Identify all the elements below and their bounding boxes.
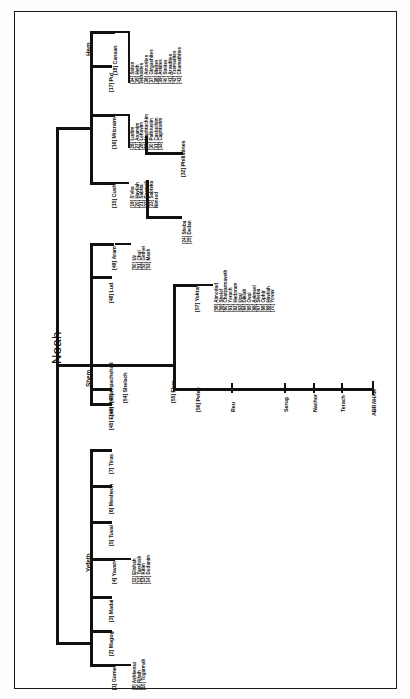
node-yavan-num: [4] [111,578,117,584]
node-mitzraim: [16] Mitzraim [111,117,117,149]
list-item: [43] Chamathites [178,47,183,84]
node-mitzraim-num: [16] [111,140,117,149]
list-item: [33] Caphtorim [159,114,164,150]
node-philistines: [32] Philistines [180,141,186,177]
node-lud-label: Lud [108,283,114,293]
node-magog-num: [2] [108,650,114,656]
connector-ham-put [90,65,112,68]
connector-noah-shem [56,364,90,367]
node-gomer-label: Gomer [111,665,117,682]
node-cush: [15] Cush [111,184,117,208]
connector-noah-japheth [56,642,90,645]
connector-shelach-eber [116,364,174,367]
node-nachor: Nachor [312,394,318,412]
bracket-raamah [146,180,149,218]
node-shelach-label: Shelach [122,372,128,392]
connector-shem-lud [90,276,112,279]
node-tiras-label: Tiras [108,454,114,466]
node-yoktan-num: [57] [194,303,200,312]
node-peleg: [56] Peleg [195,388,201,412]
connector-casluchim-philistines [145,152,183,155]
list-item: [25] Dedan [188,221,193,245]
list-item: [14] Dodanim [147,555,152,584]
tick-serug [284,383,286,393]
node-lud: [48] Lud [108,283,114,303]
node-peleg-num: [56] [195,403,201,412]
node-madai-num: [3] [108,616,114,622]
list-aram-descendants: [50] Uz [51] Chul [52] Gether [53] Mash [133,246,152,270]
tick-terach [341,383,343,393]
node-meshech-num: [6] [108,508,114,514]
list-item: [70] Yovav [271,270,276,312]
node-cush-label: Cush [111,184,117,197]
tick-reu [231,383,233,393]
node-put: [17] Put [108,73,114,92]
node-put-label: Put [108,73,114,81]
list-item: Nimrod [155,181,160,208]
node-elam-label: Elam [108,407,114,420]
node-tuval: [5] Tuval [108,525,114,546]
connector-aram-children [115,243,131,245]
node-madai: [3] Madai [108,600,114,622]
connector-mitzraim-children [115,114,129,116]
node-eber-num: [55] [170,394,176,403]
list-yoktan-descendants: [58] Almodad [59] Shelef [60] Chatzarmav… [215,270,276,312]
node-yavan-label: Yavan [111,561,117,576]
spine-ham [90,31,93,182]
connector-canaan-children [115,31,129,33]
node-shelach: [54] Shelach [122,372,128,403]
genealogy-chart-page: Noah Ham [18] Canaan [34] Sidon [0,0,410,699]
node-canaan: [18] Canaan [112,46,118,75]
node-gomer-num: [1] [111,684,117,690]
node-meshech-label: Meshech [108,484,114,506]
node-elam: [45] Elam [108,407,114,430]
node-tuval-label: Tuval [108,525,114,538]
connector-yoktan-children [197,284,213,286]
list-gomer-descendants: [8] Ashkenaz [9] Rifath [10] Togarmah [133,659,147,690]
connector-ham-canaan [90,31,115,34]
connector-yefeth-madai [90,596,112,599]
connector-yavan-children [115,558,131,560]
node-tuval-num: [5] [108,540,114,546]
node-mitzraim-label: Mitzraim [111,117,117,138]
node-yavan: [4] Yavan [111,561,117,584]
node-canaan-label: Canaan [112,46,118,65]
connector-cush-children [115,182,129,184]
node-shelach-num: [54] [122,394,128,403]
node-cush-num: [15] [111,199,117,208]
node-madai-label: Madai [108,600,114,615]
spine-noah [56,127,59,643]
node-serug: Serug [283,397,289,412]
connector-yefeth-tuval [90,521,112,524]
chart-frame: Noah Ham [18] Canaan [34] Sidon [14,11,397,689]
node-aram-num: [49] [111,261,117,270]
node-philistines-label: Philistines [180,141,186,167]
node-reu: Reu [230,402,236,412]
connector-raamah-children [146,216,182,219]
node-tiras-num: [7] [108,468,114,474]
bracket-eber [173,284,176,388]
tick-nachor [313,383,315,393]
list-item: [53] Mash [147,246,152,270]
spine-shem [90,243,93,403]
connector-noah-ham [56,127,90,130]
list-canaan-descendants: [34] Sidon [35] Heth Jebusites [36] Amor… [131,47,183,84]
tick-abraham [372,381,374,395]
node-put-num: [17] [108,83,114,92]
node-philistines-num: [32] [180,168,186,177]
node-aram: [49] Aram [111,246,117,270]
node-aram-label: Aram [111,246,117,259]
node-lud-num: [48] [108,294,114,303]
node-gomer: [1] Gomer [111,665,117,690]
node-yoktan: [57] Yoktan [194,285,200,312]
node-elam-num: [45] [108,421,114,430]
connector-yefeth-yavan [90,558,115,561]
chart-canvas: Noah Ham [18] Canaan [34] Sidon [15,12,396,688]
list-item: [10] Togarmah [142,659,147,690]
list-yavan-descendants: [11] Elishah [12] Tarshish [13] Kitim [1… [133,555,152,584]
node-yoktan-label: Yoktan [194,285,200,302]
connector-yefeth-tiras [90,449,112,452]
node-tiras: [7] Tiras [108,454,114,474]
node-meshech: [6] Meshech [108,484,114,514]
node-magog-label: Magog [108,631,114,648]
